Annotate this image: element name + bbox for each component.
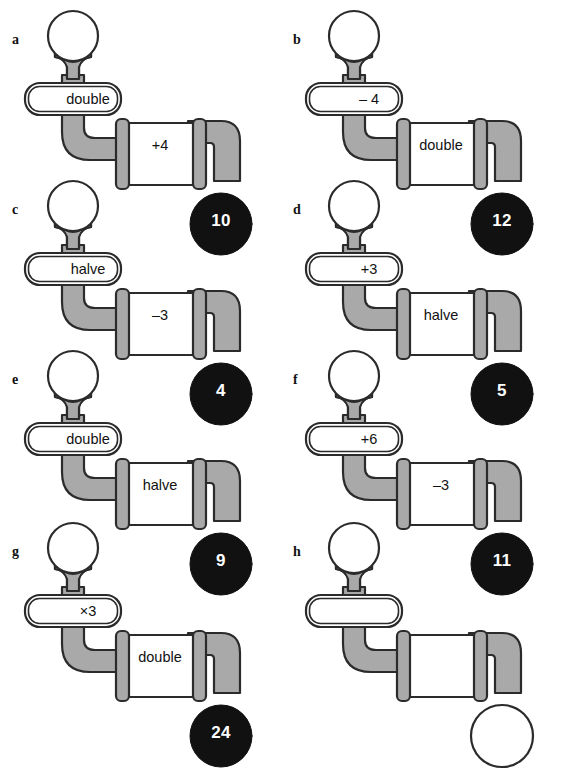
operation-1-badge-inner: [310, 599, 399, 624]
operation-2-collar-left: [397, 631, 410, 701]
operation-1-label-a: double: [50, 92, 126, 107]
operation-1-label-c: halve: [50, 262, 126, 277]
panel-label-c: c: [12, 203, 18, 217]
operation-1-label-e: double: [50, 432, 126, 447]
input-ball: [48, 351, 98, 401]
operation-2-box: [405, 635, 479, 697]
operation-1-label-d: +3: [331, 262, 407, 277]
operation-2-label-c: –3: [122, 308, 198, 323]
operation-2-collar-right: [474, 631, 487, 701]
input-ball: [329, 181, 379, 231]
result-circle: [471, 705, 533, 767]
input-ball: [329, 11, 379, 61]
input-ball: [329, 523, 379, 573]
operation-2-label-b: double: [403, 138, 479, 153]
operation-2-label-a: +4: [122, 138, 198, 153]
result-value-g: 24: [190, 724, 252, 741]
operation-2-label-d: halve: [403, 308, 479, 323]
operation-2-label-g: double: [122, 650, 198, 665]
function-machine-panel-a: adouble+410: [0, 0, 281, 190]
panel-label-b: b: [293, 33, 301, 47]
panel-label-d: d: [293, 203, 301, 217]
function-machine-panel-f: f+6–311: [281, 340, 562, 530]
operation-1-label-f: +6: [331, 432, 407, 447]
operation-2-collar-left: [116, 631, 129, 701]
function-machine-panel-c: chalve–34: [0, 170, 281, 360]
function-machine-panel-h: h: [281, 512, 562, 702]
panel-label-e: e: [12, 373, 18, 387]
operation-1-label-g: ×3: [50, 604, 126, 619]
input-ball: [48, 523, 98, 573]
function-machine-panel-g: g×3double24: [0, 512, 281, 702]
function-machine-panel-b: b– 4double12: [281, 0, 562, 190]
operation-2-box: [124, 635, 198, 697]
panel-label-a: a: [12, 33, 19, 47]
input-ball: [48, 11, 98, 61]
function-machine-panel-d: d+3halve5: [281, 170, 562, 360]
panel-label-g: g: [12, 545, 19, 559]
input-ball: [48, 181, 98, 231]
function-machine-panel-e: edoublehalve9: [0, 340, 281, 530]
operation-2-label-f: –3: [403, 478, 479, 493]
panel-label-h: h: [293, 545, 301, 559]
operation-2-label-e: halve: [122, 478, 198, 493]
input-ball: [329, 351, 379, 401]
worksheet-page: adouble+410 b– 4double12: [0, 0, 562, 777]
operation-2-collar-right: [193, 631, 206, 701]
panel-label-f: f: [293, 373, 298, 387]
operation-1-label-b: – 4: [331, 92, 407, 107]
